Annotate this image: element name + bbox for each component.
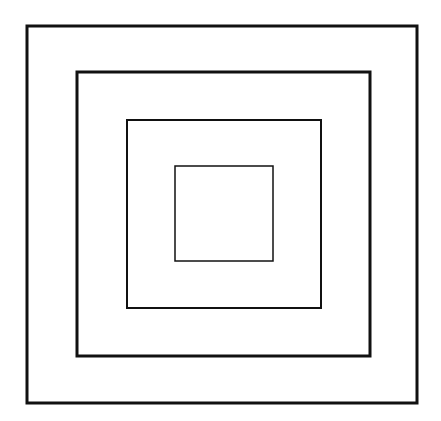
third-square: [127, 120, 321, 308]
nested-squares-diagram: [0, 0, 441, 421]
second-square: [77, 72, 370, 356]
inner-square: [175, 166, 273, 261]
outer-square: [27, 26, 417, 403]
